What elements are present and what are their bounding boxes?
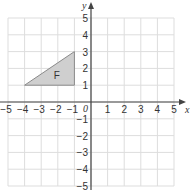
x-tick-label: 1	[105, 104, 111, 115]
y-tick-label: 5	[82, 13, 88, 24]
y-tick-label: −5	[77, 181, 89, 192]
x-tick-label: −2	[50, 104, 62, 115]
y-tick-label: 3	[82, 47, 88, 58]
y-tick-label: −2	[77, 131, 89, 142]
coordinate-grid: F −5−4−3−2−112345 54321−1−2−3−4−5 0 x y	[0, 0, 191, 193]
x-tick-label: −5	[0, 104, 12, 115]
x-tick-label: 4	[155, 104, 161, 115]
y-tick-label: −1	[77, 114, 89, 125]
x-tick-label: 2	[121, 104, 127, 115]
y-tick-label: 1	[82, 80, 88, 91]
triangle-f-label: F	[54, 70, 60, 81]
axes	[0, 2, 186, 190]
origin-label: 0	[83, 103, 88, 114]
y-tick-label: −3	[77, 147, 89, 158]
y-axis-arrow-icon	[88, 2, 94, 9]
x-axis-label: x	[184, 104, 190, 115]
x-tick-label: −4	[17, 104, 29, 115]
x-tick-label: 3	[138, 104, 144, 115]
x-tick-label: −3	[33, 104, 45, 115]
y-axis-label: y	[81, 0, 87, 11]
x-axis-tick-labels: −5−4−3−2−112345	[0, 104, 177, 115]
x-tick-label: 5	[171, 104, 177, 115]
y-tick-label: −4	[77, 164, 89, 175]
y-tick-label: 4	[82, 30, 88, 41]
y-tick-label: 2	[82, 63, 88, 74]
